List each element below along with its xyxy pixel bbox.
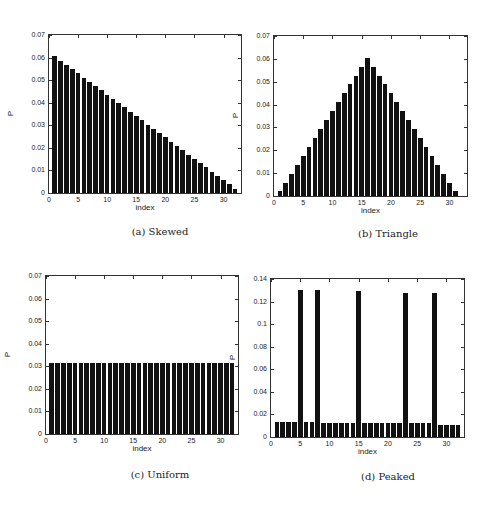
bar	[301, 156, 306, 196]
bar	[313, 138, 318, 196]
bar	[389, 93, 394, 196]
bar	[99, 90, 104, 193]
y-tick-label: 0.07	[240, 32, 270, 40]
y-tick-label: 0.04	[237, 388, 267, 396]
y-axis-label: P	[3, 352, 12, 357]
bar	[298, 290, 303, 437]
bar	[278, 191, 283, 196]
bar	[450, 425, 455, 437]
plot-area-a	[48, 34, 242, 194]
y-tick-mark	[49, 58, 52, 59]
x-tick-mark	[78, 35, 79, 38]
x-tick-label: 5	[293, 199, 313, 207]
bar	[79, 363, 84, 434]
bar	[154, 363, 159, 434]
bar	[93, 86, 98, 193]
x-tick-mark	[107, 35, 108, 38]
bar	[84, 363, 89, 434]
bar	[318, 129, 323, 196]
y-tick-label: 0.07	[15, 31, 45, 39]
x-tick-mark	[133, 276, 134, 279]
bar	[96, 363, 101, 434]
x-tick-label: 25	[410, 199, 430, 207]
y-tick-label: 0.02	[240, 146, 270, 154]
bar	[134, 116, 139, 193]
bar	[82, 78, 87, 193]
x-tick-mark	[191, 276, 192, 279]
bar	[201, 363, 206, 434]
bar	[415, 423, 420, 437]
bar	[128, 112, 133, 193]
bar	[140, 120, 145, 193]
y-tick-mark	[461, 437, 464, 438]
y-tick-mark	[464, 127, 467, 128]
bar	[380, 423, 385, 437]
bar	[116, 103, 121, 193]
x-axis-label: index	[348, 447, 388, 456]
x-tick-mark	[136, 35, 137, 38]
y-tick-label: 0.1	[237, 320, 267, 328]
y-tick-label: 0.06	[237, 365, 267, 373]
bar	[113, 363, 118, 434]
bar	[295, 165, 300, 196]
bar	[286, 422, 291, 437]
bar	[76, 73, 81, 193]
x-axis-label: index	[125, 203, 165, 212]
x-tick-label: 30	[214, 196, 234, 204]
x-tick-mark	[362, 36, 363, 39]
bar	[175, 146, 180, 193]
bar	[435, 165, 440, 196]
y-axis-label: P	[231, 113, 240, 118]
chart-caption: (d) Peaked	[288, 471, 488, 482]
bar	[304, 422, 309, 437]
y-tick-mark	[464, 173, 467, 174]
y-tick-mark	[464, 150, 467, 151]
bar	[210, 172, 215, 193]
bar	[215, 176, 220, 193]
y-tick-mark	[271, 437, 274, 438]
bar	[177, 363, 182, 434]
y-tick-label: 0.05	[240, 78, 270, 86]
y-tick-mark	[274, 59, 277, 60]
plot-area-d	[270, 278, 465, 438]
bar	[192, 159, 197, 193]
bar	[321, 423, 326, 437]
y-tick-label: 0.08	[237, 343, 267, 351]
bar	[233, 189, 238, 193]
x-axis-label: index	[351, 206, 391, 215]
y-tick-mark	[271, 324, 274, 325]
y-tick-label: 0.03	[12, 362, 42, 370]
y-tick-mark	[274, 127, 277, 128]
y-tick-mark	[274, 196, 277, 197]
x-axis-label: index	[122, 444, 162, 453]
bar	[403, 293, 408, 437]
bar	[230, 363, 235, 434]
y-tick-mark	[271, 347, 274, 348]
bar	[183, 363, 188, 434]
bar	[391, 423, 396, 437]
y-tick-label: 0.04	[15, 99, 45, 107]
y-tick-mark	[274, 82, 277, 83]
bar	[52, 56, 57, 193]
bar	[315, 290, 320, 437]
y-tick-label: 0.05	[15, 76, 45, 84]
x-tick-label: 0	[261, 440, 281, 448]
bar	[432, 293, 437, 437]
y-tick-mark	[464, 82, 467, 83]
bar	[108, 363, 113, 434]
bar	[218, 363, 223, 434]
y-tick-mark	[461, 279, 464, 280]
bar	[283, 183, 288, 196]
bar	[148, 363, 153, 434]
x-tick-mark	[221, 276, 222, 279]
x-tick-mark	[224, 35, 225, 38]
bar	[49, 363, 54, 434]
bar	[365, 58, 370, 196]
bar	[221, 180, 226, 193]
bar	[386, 423, 391, 437]
bar	[111, 99, 116, 193]
y-tick-mark	[46, 299, 49, 300]
bar	[324, 120, 329, 196]
x-tick-label: 25	[181, 437, 201, 445]
bar	[280, 422, 285, 437]
